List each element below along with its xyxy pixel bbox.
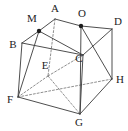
vertex-label-G: G — [75, 116, 83, 128]
hidden-edge-E-F — [18, 76, 48, 97]
vertex-labels-group: A B C D E F G H M O — [7, 2, 124, 128]
vertex-label-B: B — [9, 38, 16, 50]
edge-O-D — [81, 26, 112, 29]
vertex-label-O: O — [78, 7, 86, 19]
vertex-dot-O — [79, 24, 83, 28]
vertex-label-M: M — [27, 12, 37, 24]
edge-A-O — [55, 19, 81, 26]
edge-B-F — [18, 43, 22, 97]
cube-diagram-svg: A B C D E F G H M O — [0, 0, 128, 131]
vertex-label-C: C — [75, 52, 82, 64]
edge-M-A — [39, 19, 55, 31]
vertex-label-E: E — [42, 59, 49, 71]
cut-edge-M-F — [18, 31, 39, 97]
hidden-edge-A-E — [48, 19, 55, 76]
solid-edges-group — [18, 19, 112, 114]
hidden-edges-group — [18, 19, 112, 114]
vertex-dot-M — [37, 29, 41, 33]
vertex-label-F: F — [7, 93, 13, 105]
geometry-figure: A B C D E F G H M O — [0, 0, 128, 131]
hidden-edge-E-G — [48, 76, 80, 114]
edge-B-M — [22, 31, 39, 43]
edge-C-D — [83, 29, 112, 55]
edge-B-C — [22, 43, 83, 55]
vertex-label-A: A — [51, 2, 59, 14]
edge-F-G — [18, 97, 80, 114]
vertex-label-D: D — [114, 15, 122, 27]
vertex-label-H: H — [116, 73, 124, 85]
marked-point-dots-group — [37, 24, 83, 33]
